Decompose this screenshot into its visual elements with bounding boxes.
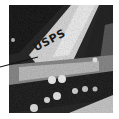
aerial-photo-frame (9, 5, 113, 113)
aerial-photo (9, 5, 113, 113)
